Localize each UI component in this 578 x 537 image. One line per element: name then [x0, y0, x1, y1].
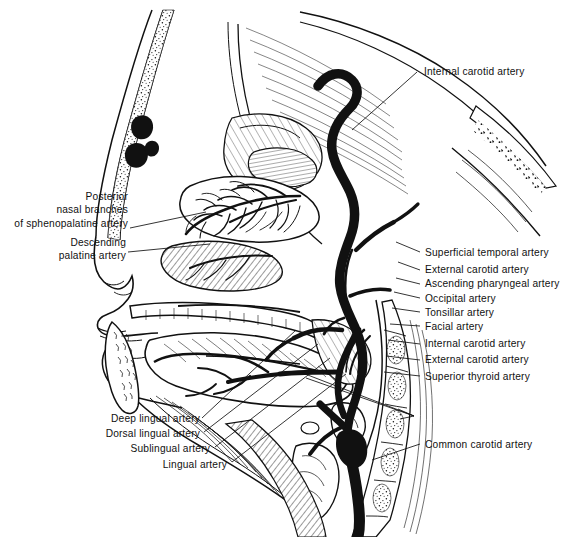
label-sublingual-artery: Sublingual artery [90, 442, 210, 455]
label-external-carotid-artery-1: External carotid artery [425, 263, 529, 276]
label-line-1: Posterior [86, 191, 128, 202]
label-lingual-artery: Lingual artery [110, 458, 227, 471]
label-superior-thyroid-artery: Superior thyroid artery [425, 370, 530, 383]
label-occipital-artery: Occipital artery [425, 292, 496, 305]
label-descending-palatine-artery: Descending palatine artery [18, 236, 126, 263]
occipital-diploe [472, 120, 546, 195]
label-line-1: Descending [70, 237, 126, 248]
label-posterior-nasal-branches-sphenopalatine: Posterior nasal branches of sphenopalati… [2, 190, 128, 230]
label-superficial-temporal-artery: Superficial temporal artery [425, 246, 549, 259]
label-tonsillar-artery: Tonsillar artery [425, 306, 494, 319]
label-internal-carotid-artery-top: Internal carotid artery [424, 65, 524, 78]
label-line-3: of sphenopalatine artery [14, 218, 128, 229]
label-common-carotid-artery: Common carotid artery [425, 438, 532, 451]
label-line-2: nasal branches [56, 204, 128, 215]
label-line-2: palatine artery [59, 250, 126, 261]
label-internal-carotid-artery-2: Internal carotid artery [425, 337, 525, 350]
label-deep-lingual-artery: Deep lingual artery [76, 412, 200, 425]
label-dorsal-lingual-artery: Dorsal lingual artery [70, 427, 200, 440]
label-ascending-pharyngeal-artery: Ascending pharyngeal artery [425, 277, 560, 290]
label-external-carotid-artery-2: External carotid artery [425, 353, 529, 366]
label-facial-artery: Facial artery [425, 320, 483, 333]
